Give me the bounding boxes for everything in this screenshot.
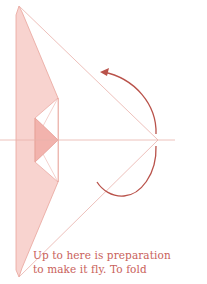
instruction-caption: Up to here is preparation to make it fly…: [33, 248, 207, 276]
caption-line-2: to make it fly. To fold: [33, 262, 207, 276]
fold-over-arrow-icon: [97, 68, 156, 196]
folding-diagram: [0, 0, 207, 284]
caption-line-1: Up to here is preparation: [33, 248, 207, 262]
